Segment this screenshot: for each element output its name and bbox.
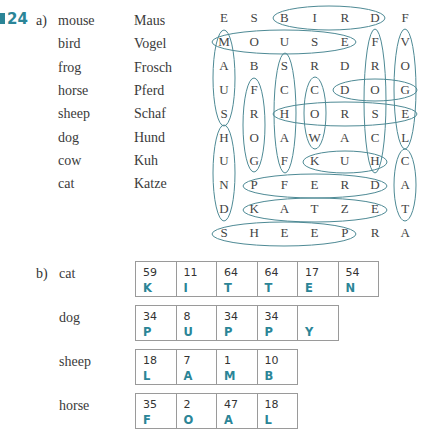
code-letter: F	[143, 413, 151, 427]
code-cell: 10B	[257, 349, 299, 385]
code-number: 34	[224, 310, 238, 323]
grid-letter: T	[395, 201, 415, 217]
grid-letter: A	[395, 177, 415, 193]
grid-letter: K	[305, 153, 325, 169]
grid-letter: U	[214, 153, 234, 169]
grid-letter: E	[274, 225, 294, 241]
code-number: 18	[265, 398, 279, 411]
grid-letter: O	[365, 82, 385, 98]
code-letter: T	[265, 281, 273, 295]
code-cell: 11I	[176, 261, 218, 297]
grid-letter: S	[365, 106, 385, 122]
grid-letter: O	[305, 106, 325, 122]
code-letter: A	[184, 369, 193, 383]
german-word: Schaf	[134, 106, 166, 122]
grid-letter: E	[395, 106, 415, 122]
code-number: 34	[265, 310, 279, 323]
code-cell: 47A	[216, 393, 258, 429]
exercise-marker-icon	[0, 13, 5, 24]
grid-letter: F	[274, 177, 294, 193]
english-word: mouse	[58, 13, 95, 29]
grid-letter: H	[214, 130, 234, 146]
code-letter: B	[265, 369, 274, 383]
grid-letter: I	[305, 10, 325, 26]
code-cell: 2O	[176, 393, 218, 429]
code-letter: Y	[305, 325, 313, 339]
code-letter: P	[143, 325, 151, 339]
grid-letter: C	[365, 130, 385, 146]
code-row-horse: 35F2O47A18L	[135, 393, 298, 429]
code-number: 11	[184, 266, 198, 279]
english-word: cow	[58, 153, 81, 169]
code-number: 7	[184, 354, 191, 367]
grid-letter: D	[365, 177, 385, 193]
grid-letter: S	[214, 225, 234, 241]
code-cell: 1M	[216, 349, 258, 385]
code-letter: M	[224, 369, 235, 383]
code-cell: 8U	[176, 305, 218, 341]
code-cell: 54N	[338, 261, 380, 297]
grid-letter: A	[395, 225, 415, 241]
grid-letter: S	[244, 10, 264, 26]
grid-letter: L	[395, 130, 415, 146]
code-cell: 64T	[216, 261, 258, 297]
code-cell: 7A	[176, 349, 218, 385]
german-word: Maus	[134, 13, 165, 29]
code-row-sheep: 18L7A1M10B	[135, 349, 298, 385]
grid-letter: O	[244, 34, 264, 50]
code-letter: L	[265, 413, 272, 427]
english-word: cat	[58, 176, 74, 192]
circle-frosch	[364, 29, 386, 173]
code-row-cat: 59K11I64T64T17E54N	[135, 261, 379, 297]
english-word: dog	[58, 130, 79, 146]
grid-letter: R	[335, 106, 355, 122]
code-number: 64	[224, 266, 238, 279]
grid-letter: B	[244, 58, 264, 74]
code-letter: A	[224, 413, 233, 427]
grid-letter: G	[244, 153, 264, 169]
grid-letter: P	[244, 177, 264, 193]
german-word: Frosch	[134, 60, 172, 76]
english-word: frog	[58, 60, 81, 76]
code-number: 2	[184, 398, 191, 411]
code-cell: 34P	[257, 305, 299, 341]
code-cell: 64T	[257, 261, 299, 297]
grid-letter: M	[214, 34, 234, 50]
grid-letter: O	[395, 58, 415, 74]
grid-letter: C	[305, 82, 325, 98]
english-word: bird	[58, 36, 81, 52]
grid-letter: F	[365, 34, 385, 50]
code-letter: P	[265, 325, 273, 339]
grid-letter: E	[305, 225, 325, 241]
english-word: horse	[58, 83, 88, 99]
grid-letter: R	[335, 177, 355, 193]
grid-letter: R	[365, 58, 385, 74]
grid-letter: Z	[335, 201, 355, 217]
grid-letter: F	[274, 153, 294, 169]
grid-letter: C	[395, 153, 415, 169]
grid-letter: A	[274, 201, 294, 217]
grid-letter: P	[335, 225, 355, 241]
exercise-number: 24	[0, 10, 28, 28]
grid-letter: W	[305, 130, 325, 146]
grid-letter: H	[365, 153, 385, 169]
code-animal-label: sheep	[59, 354, 91, 370]
german-word: Hund	[134, 130, 165, 146]
code-number: 64	[265, 266, 279, 279]
grid-letter: H	[244, 225, 264, 241]
code-letter: L	[143, 369, 150, 383]
german-word: Vogel	[134, 36, 166, 52]
grid-letter: U	[214, 82, 234, 98]
code-number: 47	[224, 398, 238, 411]
code-letter: K	[143, 281, 152, 295]
code-animal-label: cat	[59, 266, 75, 282]
code-number: 8	[184, 310, 191, 323]
code-cell: 59K	[135, 261, 177, 297]
grid-letter: C	[274, 82, 294, 98]
grid-letter: S	[214, 106, 234, 122]
code-number: 34	[143, 310, 157, 323]
code-row-dog: 34P8U34P34PY	[135, 305, 339, 341]
code-cell: 34P	[216, 305, 258, 341]
grid-letter: R	[305, 58, 325, 74]
code-number: 17	[305, 266, 319, 279]
